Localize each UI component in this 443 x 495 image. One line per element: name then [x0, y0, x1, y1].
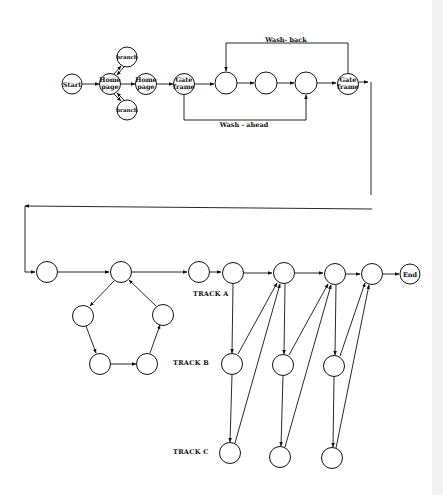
node-branch-top: branch [116, 47, 138, 67]
node-start: Start [62, 74, 82, 94]
wash-ahead-label: Wash - ahead [219, 121, 269, 129]
edge-branch-bottom-home1 [117, 93, 124, 100]
node-track-b-3 [324, 356, 345, 377]
edge-b2-c2 [281, 376, 283, 446]
track-a-label: TRACK A [193, 290, 229, 298]
edge-pent-br-right [150, 325, 160, 353]
flow-diagram: Start Home page branch branch Home page … [0, 0, 443, 495]
node-label: frame [337, 83, 358, 91]
node-frame-b [255, 72, 277, 94]
node-label: Start [63, 81, 81, 89]
node-end: End [400, 264, 420, 284]
edge-wash-back [226, 43, 348, 73]
node-gate-frame-2: Gate frame [337, 74, 358, 95]
edge-home1-branch-bottom [114, 94, 121, 101]
edge-b1-a2 [238, 283, 277, 354]
node-pentagon-bottom-right [137, 354, 158, 375]
edge-pent-left-bl [86, 326, 96, 353]
node-home-page-2: Home page [135, 74, 157, 95]
node-label: frame [173, 83, 194, 91]
node-track-a-1 [223, 263, 244, 284]
edge-a3-b3 [335, 285, 336, 355]
node-label: page [137, 83, 154, 91]
node-pentagon-left [73, 306, 94, 327]
node-pentagon-right [153, 305, 174, 326]
node-track-c-3 [322, 448, 343, 469]
node-pentagon-bottom-left [90, 354, 111, 375]
edge-pent-top-left [90, 281, 114, 306]
node-label: branch [116, 107, 138, 113]
edge-b3-a4 [340, 283, 365, 356]
edge-wash-ahead [184, 95, 306, 120]
node-home-page-1: Home page [99, 74, 121, 95]
edge-a2-b2 [284, 284, 285, 354]
node-frame-c [295, 72, 317, 94]
node-branch-bottom: branch [116, 100, 138, 120]
edge-home1-branch-top [114, 66, 121, 74]
node-track-a-2 [274, 263, 295, 284]
wash-back-label: Wash- back [264, 36, 307, 44]
node-label: branch [116, 54, 138, 60]
edge-b1-c1 [230, 375, 232, 442]
node-gate-frame-1: Gate frame [173, 74, 194, 95]
node-track-b-1 [222, 354, 243, 375]
edge-b3-c3 [333, 377, 334, 447]
node-bottom-1 [37, 262, 58, 283]
node-track-a-4 [362, 264, 383, 285]
edge-branch-top-home1 [117, 67, 124, 75]
track-b-label: TRACK B [173, 359, 209, 367]
edge-b2-a3 [289, 284, 328, 355]
node-track-a-3 [325, 264, 346, 285]
edge-a1-b1 [232, 284, 233, 353]
edge-connector-left [25, 206, 372, 209]
node-track-c-2 [270, 447, 291, 468]
edge-pent-right-top [129, 280, 156, 306]
node-bottom-3 [189, 262, 210, 283]
node-label: page [101, 83, 118, 91]
node-track-c-1 [220, 443, 241, 464]
track-c-label: TRACK C [173, 448, 209, 456]
node-pentagon-top [111, 262, 132, 283]
node-label: End [403, 271, 418, 279]
node-frame-a [215, 72, 237, 94]
edge-connector-into-bottom [25, 206, 35, 272]
node-track-b-2 [273, 355, 294, 376]
